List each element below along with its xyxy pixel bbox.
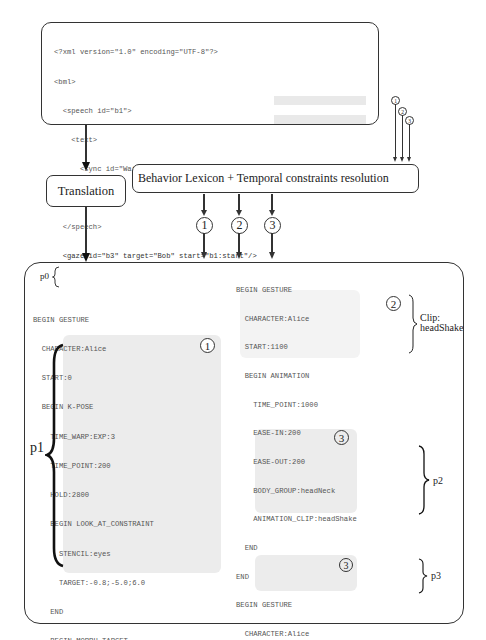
bml-input-box: <?xml version="1.0" encoding="UTF-8"?> <… bbox=[41, 22, 379, 125]
code-line: END bbox=[236, 544, 374, 554]
xml-line: <?xml version="1.0" encoding="UTF-8"?> bbox=[54, 48, 360, 58]
xml-line: <text> bbox=[54, 136, 360, 146]
p2-label: p2 bbox=[433, 475, 443, 486]
marker-pose: 3 bbox=[339, 558, 353, 572]
code-line: TARGET:-0.8;-5.0;6.0 bbox=[33, 579, 180, 589]
code-line: CHARACTER:Alice bbox=[236, 315, 374, 325]
p0-brace-icon bbox=[52, 266, 60, 288]
code-line: CHARACTER:Alice bbox=[236, 630, 374, 640]
xml-line: <speech id="b1"> bbox=[54, 107, 360, 117]
translation-label: Translation bbox=[58, 184, 115, 199]
clip-brace-icon bbox=[408, 294, 418, 354]
arrow-head-icon bbox=[201, 252, 207, 259]
p3-brace-icon bbox=[418, 558, 428, 594]
marker-position: 3 bbox=[334, 430, 349, 445]
constraint-marker-2: 2 bbox=[231, 217, 248, 234]
arrow-head-icon bbox=[269, 252, 275, 259]
code-line: ANIMATION_CLIP:headShake bbox=[236, 515, 374, 525]
code-line: EASE-OUT:200 bbox=[236, 458, 374, 468]
marker-animation: 2 bbox=[386, 296, 401, 311]
code-line: BEGIN GESTURE bbox=[236, 286, 374, 296]
code-line: EASE-IN:200 bbox=[236, 429, 374, 439]
p1-label: p1 bbox=[30, 440, 44, 456]
clip-label-line2: headShake bbox=[420, 323, 463, 333]
arrow-line-2b bbox=[238, 233, 240, 253]
arrow-head-icon bbox=[82, 253, 90, 262]
arrow-head-icon bbox=[407, 157, 411, 162]
arrow-head-icon bbox=[236, 252, 242, 259]
arrow-translation-to-output bbox=[85, 206, 87, 258]
constraint-marker-3: 3 bbox=[264, 217, 281, 234]
xml-line: <bml> bbox=[54, 78, 360, 88]
p2-brace-icon bbox=[418, 445, 430, 515]
arrow-head-icon bbox=[393, 157, 397, 162]
code-line: TIME_POINT:1000 bbox=[236, 401, 374, 411]
code-line: BEGIN ANIMATION bbox=[236, 372, 374, 382]
code-line: START:1100 bbox=[236, 343, 374, 353]
xml-line gaze-line: <gaze id="b3" target="Bob" start="b1:sta… bbox=[54, 252, 360, 262]
clip-label: Clip: headShake bbox=[420, 313, 463, 333]
p3-label: p3 bbox=[431, 570, 441, 581]
code-line: BEGIN GESTURE bbox=[236, 601, 374, 611]
lexicon-box: Behavior Lexicon + Temporal constraints … bbox=[132, 164, 419, 193]
arrow-line-3b bbox=[271, 233, 273, 253]
arrow-head-icon bbox=[269, 210, 275, 216]
marker-look-at: 1 bbox=[200, 338, 215, 353]
p1-brace-icon bbox=[45, 343, 65, 568]
marker-line-1 bbox=[395, 104, 396, 158]
arrow-xml-to-translation bbox=[85, 124, 87, 164]
translation-box: Translation bbox=[46, 175, 126, 207]
code-line: BODY_GROUP:headNeck bbox=[236, 487, 374, 497]
code-line: BEGIN GESTURE bbox=[33, 316, 180, 326]
arrow-head-icon bbox=[236, 210, 242, 216]
code-line: END bbox=[236, 573, 374, 583]
lexicon-label: Behavior Lexicon + Temporal constraints … bbox=[138, 171, 389, 186]
arrow-head-icon bbox=[400, 157, 404, 162]
arrow-head-icon bbox=[82, 162, 90, 171]
arrow-head-icon bbox=[201, 210, 207, 216]
code-line: END bbox=[33, 608, 180, 618]
marker-line-3 bbox=[409, 124, 410, 158]
marker-line-2 bbox=[402, 115, 403, 158]
right-column-code: BEGIN GESTURE CHARACTER:Alice START:1100… bbox=[236, 267, 374, 640]
arrow-line-1b bbox=[203, 233, 205, 253]
constraint-marker-1: 1 bbox=[196, 217, 213, 234]
p0-label: p0 bbox=[40, 271, 49, 281]
